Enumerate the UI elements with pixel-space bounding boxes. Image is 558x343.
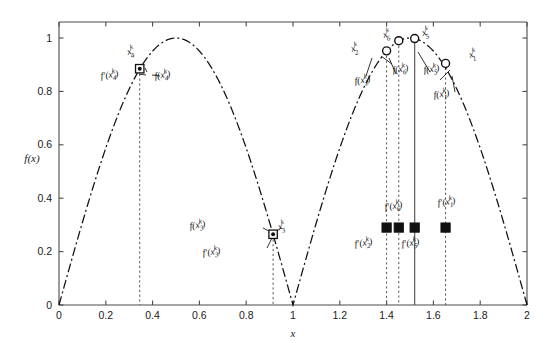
x-tick-label: 0 — [56, 309, 62, 321]
label-dfx1: f'(x1k) — [437, 194, 457, 211]
function-curve — [59, 38, 527, 305]
label-x4: xk4 — [124, 42, 138, 61]
chart-svg: 00.20.40.60.811.21.41.61.82 00.20.40.60.… — [0, 0, 558, 343]
label-x2: xk2 — [348, 39, 362, 58]
label-x5: xk5 — [419, 23, 433, 42]
y-axis-title: f(x) — [24, 152, 40, 165]
x-tick-label: 0.4 — [145, 309, 160, 321]
top-axis-ticks — [59, 22, 527, 27]
derivative-square-markers — [382, 223, 450, 232]
x-tick-label: 1 — [290, 309, 296, 321]
right-axis-ticks — [523, 38, 528, 305]
leader-lines — [139, 52, 455, 248]
y-tick-label: 0.6 — [37, 138, 52, 150]
label-x6: xk6 — [380, 25, 394, 44]
point-marker-x2 — [383, 47, 391, 55]
label-fx1: f(x1k) — [433, 86, 451, 103]
x-tick-label: 1.2 — [332, 309, 347, 321]
x-tick-label: 0.2 — [98, 309, 113, 321]
x-tick-label: 1.4 — [379, 309, 394, 321]
label-dfx5: f'(x5k) — [401, 235, 421, 252]
y-axis-ticks: 00.20.40.60.81 — [37, 32, 63, 311]
plot-frame — [59, 22, 527, 305]
y-tick-label: 0 — [46, 299, 52, 311]
derivative-marker-dx5 — [410, 223, 419, 232]
label-fx3: f(x3k) — [189, 217, 207, 234]
y-tick-label: 0.2 — [37, 245, 52, 257]
label-dfx4: f'(x4k) — [100, 67, 120, 84]
label-fx2: f(x2k) — [354, 72, 372, 89]
derivative-marker-dx1 — [441, 223, 450, 232]
y-tick-label: 0.4 — [37, 192, 52, 204]
point-marker-x6 — [395, 37, 403, 45]
y-tick-label: 0.8 — [37, 85, 52, 97]
label-fx6: f(x6k) — [392, 61, 410, 78]
x-axis-title: x — [290, 327, 296, 339]
label-x1: xk1 — [466, 45, 480, 64]
vertical-guide-lines — [140, 39, 446, 305]
x-tick-label: 1.6 — [426, 309, 441, 321]
point-marker-core-x3 — [271, 232, 275, 236]
derivative-marker-dx2 — [382, 223, 391, 232]
x-tick-label: 1.8 — [473, 309, 488, 321]
x-tick-label: 2 — [524, 309, 530, 321]
figure-container: 00.20.40.60.811.21.41.61.82 00.20.40.60.… — [0, 0, 558, 343]
label-dfx2: f'(x2k) — [354, 235, 374, 252]
y-tick-label: 1 — [46, 32, 52, 44]
x-tick-label: 0.6 — [192, 309, 207, 321]
label-fx4: f(x4k) — [154, 67, 172, 84]
point-marker-x1 — [442, 59, 450, 67]
x-tick-label: 0.8 — [239, 309, 254, 321]
derivative-marker-dx6 — [394, 223, 403, 232]
point-marker-core-x4 — [138, 67, 142, 71]
point-marker-x5 — [411, 35, 419, 43]
label-dfx3: f'(x3k) — [202, 244, 222, 261]
